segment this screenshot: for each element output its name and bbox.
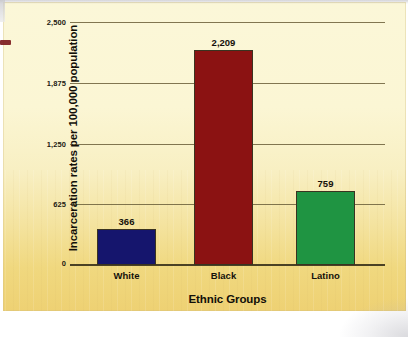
bar-value-latino: 759 xyxy=(296,178,355,189)
ytick-label-625: 625 xyxy=(32,200,66,209)
y-axis-title: Incarceration rates per 100,000 populati… xyxy=(67,13,79,263)
x-axis-title: Ethnic Groups xyxy=(70,293,385,305)
ytick-label-1875: 1,875 xyxy=(32,79,66,88)
category-label-black: Black xyxy=(194,270,253,281)
bar-white[interactable] xyxy=(97,229,156,265)
ytick-label-1250: 1,250 xyxy=(32,140,66,149)
bar-value-white: 366 xyxy=(97,216,156,227)
bar-group-latino[interactable]: 759 xyxy=(296,191,355,265)
bar-group-white[interactable]: 366 xyxy=(97,229,156,265)
bar-black[interactable] xyxy=(194,50,253,265)
bar-latino[interactable] xyxy=(296,191,355,265)
ytick-label-2500: 2,500 xyxy=(32,18,66,27)
category-label-white: White xyxy=(97,270,156,281)
bar-group-black[interactable]: 2,209 xyxy=(194,50,253,265)
ytick-label-0: 0 xyxy=(32,259,66,268)
category-label-latino: Latino xyxy=(296,270,355,281)
gridline-2500 xyxy=(70,22,385,23)
bar-value-black: 2,209 xyxy=(194,37,253,48)
scanned-page: 2,500 1,875 1,250 625 0 Incarceration ra… xyxy=(0,0,408,337)
bar-chart: 2,500 1,875 1,250 625 0 Incarceration ra… xyxy=(0,0,408,337)
